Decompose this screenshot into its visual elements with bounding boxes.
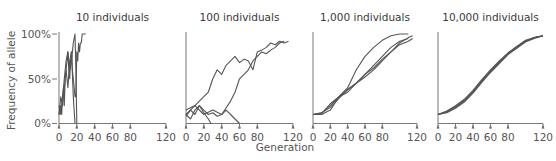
panel-4: 10,000 individuals020406080120 (435, 11, 553, 143)
x-tick-label: 120 (533, 131, 553, 143)
x-tick-label: 40 (88, 131, 101, 143)
panel-3: 1,000 individuals020406080120 (310, 11, 427, 143)
x-tick-label: 0 (183, 131, 190, 143)
series-line-3 (438, 36, 543, 115)
axes (313, 32, 417, 124)
x-tick-label: 120 (407, 131, 427, 143)
x-tick-label: 40 (466, 131, 479, 143)
y-tick-0: 0% (34, 117, 51, 129)
x-tick-label: 20 (449, 131, 462, 143)
series-line-1 (438, 36, 543, 115)
x-tick-label: 80 (376, 131, 389, 143)
series-line-4 (438, 36, 543, 115)
x-axis-label: Generation (256, 141, 315, 153)
series-line-3 (186, 106, 240, 124)
series-line-1 (186, 41, 289, 114)
panel-1: 10 individuals020406080120 (56, 11, 176, 143)
series-line-2 (438, 36, 543, 115)
x-tick-label: 40 (215, 131, 228, 143)
x-tick-label: 60 (106, 131, 119, 143)
panel-title: 100 individuals (200, 11, 280, 23)
series-line-4 (313, 36, 413, 115)
x-tick-label: 0 (435, 131, 442, 143)
x-tick-label: 60 (233, 131, 246, 143)
x-tick-label: 60 (358, 131, 371, 143)
x-tick-label: 0 (56, 131, 63, 143)
y-tick-100: 100% (21, 28, 51, 40)
x-tick-label: 60 (484, 131, 497, 143)
series-line-2 (186, 41, 284, 114)
y-axis-label: Frequency of allele (5, 31, 17, 130)
y-tick-50: 50% (28, 73, 51, 85)
genetic-drift-chart: Frequency of allele 0% 50% 100% 10 indiv… (0, 0, 556, 161)
x-tick-label: 120 (156, 131, 176, 143)
x-tick-label: 80 (124, 131, 137, 143)
panel-title: 10 individuals (76, 11, 149, 23)
panels: 10 individuals020406080120100 individual… (56, 11, 553, 143)
series-line-1 (313, 34, 408, 115)
panel-2: 100 individuals020406080120 (183, 11, 303, 143)
panel-title: 1,000 individuals (320, 11, 410, 23)
x-tick-label: 40 (341, 131, 354, 143)
y-axis-ticks: 0% 50% 100% (21, 28, 57, 129)
x-tick-label: 20 (197, 131, 210, 143)
panel-title: 10,000 individuals (442, 11, 539, 23)
x-tick-label: 20 (70, 131, 83, 143)
x-tick-label: 80 (501, 131, 514, 143)
y-axis-label-group: Frequency of allele (5, 31, 17, 130)
x-tick-label: 20 (324, 131, 337, 143)
